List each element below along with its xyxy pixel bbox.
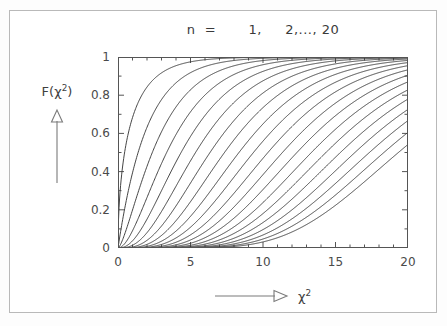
y-tick-label: 0 (60, 241, 110, 255)
chart-canvas (118, 57, 408, 248)
x-tick-label: 0 (114, 255, 122, 269)
cdf-curve (118, 59, 408, 248)
plot-area (118, 57, 408, 248)
cdf-curve (118, 121, 408, 248)
x-tick-label: 15 (328, 255, 343, 269)
y-tick-label: 0.8 (60, 88, 110, 102)
x-axis-label-group: χ2 (215, 288, 311, 304)
x-axis-label: χ2 (298, 289, 311, 304)
right-arrow-icon (215, 288, 291, 304)
x-tick-label: 20 (400, 255, 415, 269)
x-tick-label: 10 (255, 255, 270, 269)
figure-screenshot: n = 1, 2,..., 20 F(χ2) χ2 00.20.40.60.81… (0, 0, 447, 326)
cdf-curve (118, 63, 408, 248)
cdf-curve (118, 90, 408, 248)
x-tick-label: 5 (187, 255, 195, 269)
x-axis-label-superscript: 2 (306, 287, 312, 297)
cdf-curve (118, 58, 408, 248)
y-tick-label: 0.4 (60, 165, 110, 179)
cdf-curve (118, 144, 408, 248)
y-tick-label: 1 (60, 50, 110, 64)
cdf-curve-family (118, 57, 408, 248)
cdf-curve (118, 60, 408, 248)
y-tick-label: 0.6 (60, 126, 110, 140)
figure-title: n = 1, 2,..., 20 (118, 22, 408, 37)
y-axis-label-base: F(χ (42, 84, 62, 99)
x-axis-label-base: χ (298, 289, 306, 304)
y-tick-label: 0.2 (60, 203, 110, 217)
